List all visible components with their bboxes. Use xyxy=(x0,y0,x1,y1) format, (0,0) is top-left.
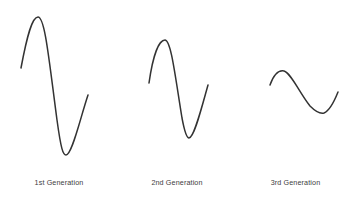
curve-1st-generation xyxy=(21,17,88,155)
caption-2nd-generation: 2nd Generation xyxy=(118,178,236,188)
caption-3rd-generation: 3rd Generation xyxy=(236,178,355,188)
caption-row: 1st Generation 2nd Generation 3rd Genera… xyxy=(0,178,355,194)
curves-canvas xyxy=(0,0,355,202)
generation-curves-figure: 1st Generation 2nd Generation 3rd Genera… xyxy=(0,0,355,202)
curve-2nd-generation xyxy=(149,40,208,138)
curve-3rd-generation xyxy=(270,71,338,113)
caption-1st-generation: 1st Generation xyxy=(0,178,118,188)
